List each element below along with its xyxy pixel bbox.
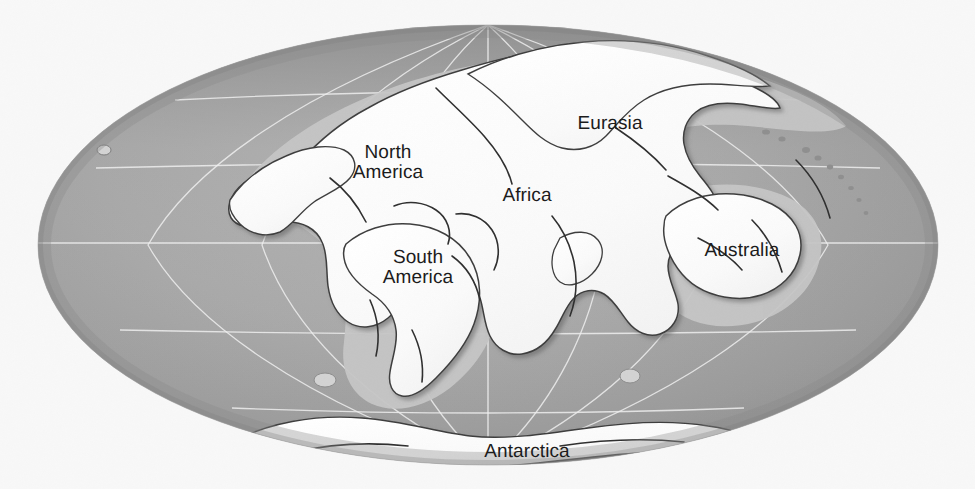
world-map-graphic bbox=[0, 0, 975, 489]
map-figure: North America Eurasia Africa South Ameri… bbox=[0, 0, 975, 489]
